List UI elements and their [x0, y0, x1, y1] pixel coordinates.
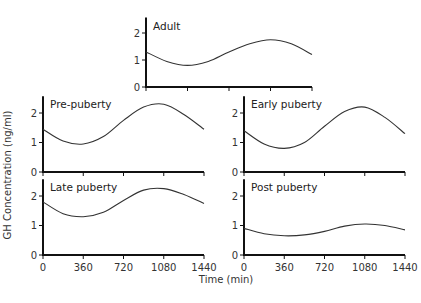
- x-tick-label: 720: [315, 262, 334, 273]
- y-tick-label: 2: [134, 28, 140, 39]
- y-tick-label: 2: [31, 108, 37, 119]
- y-tick-label: 0: [232, 250, 238, 261]
- panel-post-puberty: 012036072010801440Post puberty: [232, 179, 418, 273]
- x-tick-label: 1080: [352, 262, 377, 273]
- gh-curve: [244, 224, 405, 236]
- x-tick-label: 1080: [151, 262, 176, 273]
- panel-title: Late puberty: [50, 181, 117, 193]
- y-tick-label: 0: [31, 167, 37, 178]
- gh-curve: [244, 107, 405, 149]
- y-axis-title: GH Concentration (ng/ml): [2, 111, 13, 240]
- panel-title: Adult: [153, 20, 180, 32]
- y-tick-label: 0: [134, 82, 140, 93]
- panel-title: Pre-puberty: [50, 98, 112, 110]
- y-tick-label: 1: [232, 137, 238, 148]
- panels-group: 012Adult012Pre-puberty012Early puberty01…: [31, 18, 418, 274]
- x-axis-title: Time (min): [198, 274, 253, 285]
- panel-title: Early puberty: [251, 98, 322, 110]
- x-tick-label: 1440: [191, 262, 216, 273]
- gh-concentration-figure: 012Adult012Pre-puberty012Early puberty01…: [0, 0, 421, 303]
- y-tick-label: 2: [31, 191, 37, 202]
- y-tick-label: 0: [232, 167, 238, 178]
- y-tick-label: 1: [31, 220, 37, 231]
- gh-curve: [146, 40, 312, 66]
- panel-title: Post puberty: [251, 181, 317, 193]
- panel-early-puberty: 012Early puberty: [232, 96, 405, 177]
- panel-late-puberty: 012036072010801440Late puberty: [31, 179, 217, 273]
- y-tick-label: 1: [134, 55, 140, 66]
- panel-adult: 012Adult: [134, 18, 312, 93]
- x-tick-label: 0: [40, 262, 46, 273]
- y-tick-label: 1: [232, 220, 238, 231]
- y-tick-label: 2: [232, 108, 238, 119]
- y-tick-label: 2: [232, 191, 238, 202]
- x-tick-label: 720: [114, 262, 133, 273]
- y-tick-label: 1: [31, 137, 37, 148]
- x-tick-label: 360: [74, 262, 93, 273]
- x-tick-label: 1440: [392, 262, 417, 273]
- x-tick-label: 360: [275, 262, 294, 273]
- panel-pre-puberty: 012Pre-puberty: [31, 96, 204, 177]
- x-tick-label: 0: [241, 262, 247, 273]
- y-tick-label: 0: [31, 250, 37, 261]
